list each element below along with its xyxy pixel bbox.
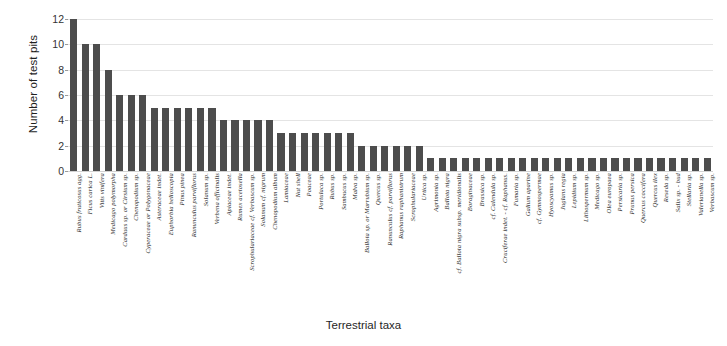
x-axis-label-slot: Raphanus raphanistrum (390, 173, 402, 313)
bar[interactable] (600, 158, 607, 171)
bar[interactable] (128, 95, 135, 171)
bar-slot (552, 19, 564, 171)
bar[interactable] (116, 95, 123, 171)
x-axis-label-slot: Solanum cf. nigrum (252, 173, 264, 313)
bar-slot (195, 19, 207, 171)
x-axis-label-slot: Valerianella sp. (690, 173, 702, 313)
bar[interactable] (588, 158, 595, 171)
bar[interactable] (681, 158, 688, 171)
y-axis-title: Number of test pits (27, 4, 39, 164)
bar[interactable] (174, 108, 181, 171)
x-axis-tick-labels: Rubus fruticosus agg.Ficus carica L.Viti… (68, 173, 713, 313)
bar-slot (160, 19, 172, 171)
bar[interactable] (185, 108, 192, 171)
bar[interactable] (347, 133, 354, 171)
bar-slot (310, 19, 322, 171)
x-axis-label-slot: Brassica sp. (471, 173, 483, 313)
bar[interactable] (416, 146, 423, 171)
bar[interactable] (105, 70, 112, 171)
plot-area (68, 19, 713, 171)
bar[interactable] (93, 44, 100, 171)
bar[interactable] (266, 120, 273, 171)
bar[interactable] (692, 158, 699, 171)
bar[interactable] (277, 133, 284, 171)
bar[interactable] (554, 158, 561, 171)
bar[interactable] (301, 133, 308, 171)
bar[interactable] (324, 133, 331, 171)
bar-slot (632, 19, 644, 171)
bar[interactable] (289, 133, 296, 171)
bar[interactable] (231, 120, 238, 171)
bar-slot (183, 19, 195, 171)
bar-slot (206, 19, 218, 171)
bar[interactable] (473, 158, 480, 171)
bar-slot (229, 19, 241, 171)
x-axis-label-slot: Hyoscyamus sp. (540, 173, 552, 313)
x-axis-label-slot: Lithospermum sp. (575, 173, 587, 313)
bar-slot (517, 19, 529, 171)
bar[interactable] (519, 158, 526, 171)
bar[interactable] (197, 108, 204, 171)
x-axis-label-slot: Carduus sp. or Cirsium sp. (114, 173, 126, 313)
x-axis-label-slot: Euphorbia helioscopia (160, 173, 172, 313)
bar-slot (609, 19, 621, 171)
bar[interactable] (611, 158, 618, 171)
bar[interactable] (139, 95, 146, 171)
bar[interactable] (335, 133, 342, 171)
bar[interactable] (82, 44, 89, 171)
bar[interactable] (565, 158, 572, 171)
x-axis-label-slot: Ballota sp. or Marrubium sp. (356, 173, 368, 313)
bar-slot (172, 19, 184, 171)
bar[interactable] (496, 158, 503, 171)
x-axis-label-slot: Rumex acetosella (229, 173, 241, 313)
bar-chart: Number of test pits 024681012 Rubus frut… (0, 0, 727, 346)
bar[interactable] (254, 120, 261, 171)
x-axis-label-slot: cf. Ballota nigra subsp. meridionalis (448, 173, 460, 313)
bar[interactable] (220, 120, 227, 171)
x-axis-label-slot: Cruciferae indet. - cf. Raphanus. (494, 173, 506, 313)
bar-slot (690, 19, 702, 171)
x-axis-label-slot: Rubus fruticosus agg. (68, 173, 80, 313)
bar[interactable] (381, 146, 388, 171)
x-axis-label-slot: Pinus pinea (172, 173, 184, 313)
bar[interactable] (450, 158, 457, 171)
bar[interactable] (531, 158, 538, 171)
bar[interactable] (646, 158, 653, 171)
x-axis-label-slot: Galium aparine (517, 173, 529, 313)
bar[interactable] (462, 158, 469, 171)
bar[interactable] (634, 158, 641, 171)
bar[interactable] (704, 158, 711, 171)
x-axis-label-slot: Stellaria sp. (678, 173, 690, 313)
bar[interactable] (623, 158, 630, 171)
bar[interactable] (393, 146, 400, 171)
x-axis-label-slot: Verbascum sp. (701, 173, 713, 313)
bar-slot (137, 19, 149, 171)
bar[interactable] (542, 158, 549, 171)
bar-slot (506, 19, 518, 171)
bar[interactable] (657, 158, 664, 171)
x-axis-label-slot: Juglans regia (552, 173, 564, 313)
bar[interactable] (439, 158, 446, 171)
x-axis-label-slot: Cyperaceae or Polygonaceae (137, 173, 149, 313)
x-axis-label-slot: Urtica sp. (413, 173, 425, 313)
bar[interactable] (70, 19, 77, 171)
bar-slot (68, 19, 80, 171)
bar-slot (344, 19, 356, 171)
bar[interactable] (358, 146, 365, 171)
bar[interactable] (669, 158, 676, 171)
bar[interactable] (151, 108, 158, 171)
bar[interactable] (427, 158, 434, 171)
bar[interactable] (208, 108, 215, 171)
bar[interactable] (370, 146, 377, 171)
x-axis-label-slot: Fumaria sp. (506, 173, 518, 313)
bar[interactable] (243, 120, 250, 171)
bar-slot (379, 19, 391, 171)
bar[interactable] (485, 158, 492, 171)
bar-slot (575, 19, 587, 171)
bar[interactable] (508, 158, 515, 171)
bar[interactable] (404, 146, 411, 171)
bar[interactable] (312, 133, 319, 171)
bar[interactable] (162, 108, 169, 171)
bar-slot (298, 19, 310, 171)
bar[interactable] (577, 158, 584, 171)
